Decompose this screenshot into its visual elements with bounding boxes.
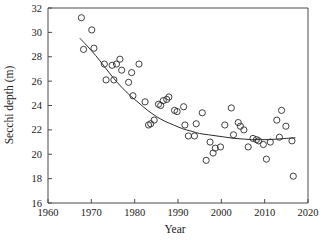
x-tick-label: 1990 bbox=[168, 207, 189, 218]
data-point bbox=[148, 121, 154, 127]
y-tick-label: 32 bbox=[32, 3, 43, 14]
axis-frame bbox=[48, 8, 308, 203]
data-point bbox=[109, 62, 115, 68]
data-point bbox=[199, 110, 205, 116]
x-tick-label: 1980 bbox=[124, 207, 145, 218]
y-tick-label: 26 bbox=[32, 76, 43, 87]
data-point bbox=[103, 77, 109, 83]
data-point bbox=[241, 127, 247, 133]
data-point bbox=[151, 117, 157, 123]
data-point bbox=[289, 138, 295, 144]
data-point bbox=[235, 119, 241, 125]
y-tick-label: 24 bbox=[32, 100, 43, 111]
y-axis-tick-labels: 161820222426283032 bbox=[32, 3, 43, 209]
y-axis-title: Secchi depth (m) bbox=[3, 66, 16, 145]
data-point bbox=[119, 67, 125, 73]
data-point bbox=[222, 122, 228, 128]
data-point bbox=[260, 141, 266, 147]
y-tick-label: 18 bbox=[32, 173, 43, 184]
y-tick-label: 28 bbox=[32, 51, 43, 62]
y-tick-label: 20 bbox=[32, 149, 43, 160]
y-tick-label: 22 bbox=[32, 124, 43, 135]
data-point bbox=[136, 61, 142, 67]
data-point bbox=[230, 132, 236, 138]
data-point bbox=[142, 99, 148, 105]
data-point bbox=[78, 15, 84, 21]
data-point bbox=[91, 45, 97, 51]
x-tick-label: 1960 bbox=[38, 207, 59, 218]
data-point bbox=[182, 122, 188, 128]
data-point bbox=[245, 144, 251, 150]
data-point bbox=[290, 173, 296, 179]
data-point bbox=[263, 156, 269, 162]
data-point bbox=[203, 157, 209, 163]
x-tick-label: 2020 bbox=[298, 207, 319, 218]
data-point bbox=[117, 56, 123, 62]
x-tick-label: 1970 bbox=[81, 207, 102, 218]
x-axis-ticks bbox=[48, 199, 308, 203]
data-point bbox=[129, 69, 135, 75]
data-point bbox=[185, 133, 191, 139]
data-point bbox=[126, 79, 132, 85]
plot-data bbox=[78, 15, 296, 180]
data-point bbox=[80, 46, 86, 52]
x-tick-label: 2010 bbox=[254, 207, 275, 218]
data-point bbox=[181, 104, 187, 110]
data-point bbox=[278, 107, 284, 113]
data-point bbox=[283, 123, 289, 129]
y-axis-ticks bbox=[48, 8, 52, 203]
y-tick-label: 16 bbox=[32, 198, 43, 209]
data-point-group bbox=[78, 15, 296, 180]
data-point bbox=[89, 27, 95, 33]
scatter-plot-figure: 1960197019801990200020102020 16182022242… bbox=[0, 0, 323, 240]
data-point bbox=[160, 98, 166, 104]
data-point bbox=[193, 121, 199, 127]
data-point bbox=[228, 105, 234, 111]
x-axis-title: Year bbox=[164, 223, 185, 235]
data-point bbox=[191, 133, 197, 139]
plot-axes: 1960197019801990200020102020 16182022242… bbox=[32, 3, 319, 218]
data-point bbox=[237, 123, 243, 129]
x-tick-label: 2000 bbox=[211, 207, 232, 218]
data-point bbox=[274, 117, 280, 123]
data-point bbox=[207, 139, 213, 145]
plot-canvas: 1960197019801990200020102020 16182022242… bbox=[0, 0, 323, 240]
x-axis-tick-labels: 1960197019801990200020102020 bbox=[38, 207, 319, 218]
y-tick-label: 30 bbox=[32, 27, 43, 38]
